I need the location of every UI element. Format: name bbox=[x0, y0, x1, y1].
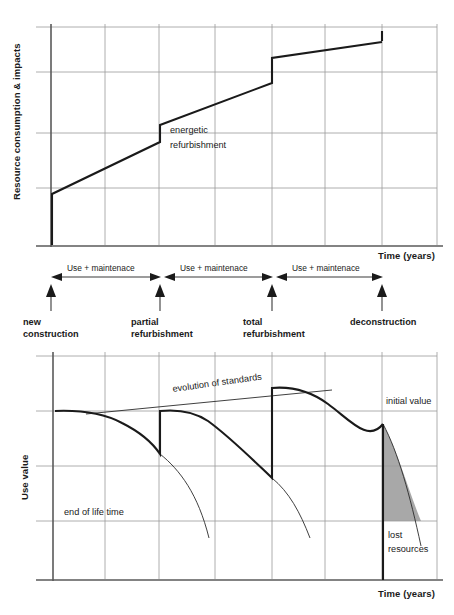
lifecycle-diagram: Resource consumption & impacts Time (yea… bbox=[0, 0, 454, 615]
bottom-chart-y-axis-label: Use value bbox=[19, 455, 30, 500]
top-chart-x-axis-label: Time (years) bbox=[378, 250, 435, 261]
top-chart-group: Resource consumption & impacts Time (yea… bbox=[11, 24, 443, 261]
uninterrupted-decay-curve-1 bbox=[160, 454, 209, 538]
uninterrupted-decay-curve-2 bbox=[272, 478, 310, 538]
evolution-of-standards-line bbox=[86, 390, 332, 414]
evolution-of-standards-label: evolution of standards bbox=[172, 372, 263, 394]
top-chart-horizontal-gridlines bbox=[36, 27, 437, 188]
event-marker-2: partial refurbishment bbox=[131, 284, 193, 339]
event-4-label-line1: deconstruction bbox=[350, 317, 417, 327]
timeline-band: Use + maintenace Use + maintenace Use + … bbox=[23, 263, 417, 339]
figure-root: Resource consumption & impacts Time (yea… bbox=[0, 0, 454, 615]
phase-1-arrow-left-head bbox=[51, 273, 62, 281]
event-2-label-line1: partial bbox=[131, 317, 159, 327]
event-4-head bbox=[377, 284, 387, 297]
event-1-label-line2: construction bbox=[23, 329, 79, 339]
phase-1-group: Use + maintenace bbox=[51, 263, 161, 281]
event-marker-3: total refurbishment bbox=[243, 284, 305, 339]
event-1-head bbox=[46, 284, 56, 297]
initial-value-label: initial value bbox=[386, 396, 431, 406]
event-3-label-line1: total bbox=[243, 317, 262, 327]
phase-2-arrow-right-head bbox=[262, 273, 273, 281]
end-of-life-time-label: end of life time bbox=[64, 507, 124, 517]
event-2-label-line2: refurbishment bbox=[131, 329, 193, 339]
phase-3-group: Use + maintenace bbox=[276, 263, 383, 281]
lost-resources-label-line2: resources bbox=[388, 544, 429, 554]
phase-2-group: Use + maintenace bbox=[164, 263, 273, 281]
event-2-head bbox=[155, 284, 165, 297]
phase-1-arrow-right-head bbox=[150, 273, 161, 281]
energetic-refurbishment-annotation-line1: energetic bbox=[170, 125, 208, 135]
phase-3-arrow-left-head bbox=[276, 273, 287, 281]
phase-3-label: Use + maintenace bbox=[292, 263, 360, 273]
lost-resources-label-line1: lost bbox=[388, 530, 403, 540]
phase-3-arrow-right-head bbox=[372, 273, 383, 281]
event-1-label-line1: new bbox=[23, 317, 42, 327]
event-marker-4: deconstruction bbox=[350, 284, 417, 327]
phase-1-label: Use + maintenace bbox=[67, 263, 135, 273]
phase-2-arrow-left-head bbox=[164, 273, 175, 281]
phase-2-label: Use + maintenace bbox=[180, 263, 248, 273]
bottom-chart-x-axis-label: Time (years) bbox=[378, 588, 435, 599]
event-marker-1: new construction bbox=[23, 284, 79, 339]
bottom-chart-group: Use value Time (years) evolution of stan… bbox=[19, 352, 443, 599]
event-3-label-line2: refurbishment bbox=[243, 329, 305, 339]
energetic-refurbishment-annotation-line2: refurbishment bbox=[170, 140, 227, 150]
top-chart-y-axis-label: Resource consumption & impacts bbox=[11, 43, 22, 200]
event-3-head bbox=[267, 284, 277, 297]
